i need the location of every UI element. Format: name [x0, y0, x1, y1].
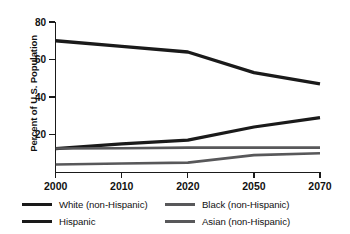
- series-line: [56, 148, 320, 149]
- legend-swatch-icon: [165, 203, 195, 206]
- chart-legend: White (non-Hispanic)Black (non-Hispanic)…: [22, 196, 342, 230]
- series-line: [56, 41, 320, 84]
- legend-item[interactable]: Black (non-Hispanic): [165, 196, 325, 213]
- legend-swatch-icon: [22, 220, 52, 224]
- legend-swatch-icon: [165, 220, 195, 223]
- legend-label: Hispanic: [59, 216, 95, 227]
- legend-label: White (non-Hispanic): [59, 199, 148, 210]
- series-line: [56, 153, 320, 164]
- legend-swatch-icon: [22, 203, 52, 207]
- series-line: [56, 118, 320, 149]
- legend-item[interactable]: Asian (non-Hispanic): [165, 213, 325, 230]
- legend-label: Black (non-Hispanic): [202, 199, 290, 210]
- legend-item[interactable]: White (non-Hispanic): [22, 196, 165, 213]
- legend-label: Asian (non-Hispanic): [202, 216, 290, 227]
- legend-item[interactable]: Hispanic: [22, 213, 165, 230]
- population-projection-chart: Percent of U.S. Population 20406080 2000…: [0, 0, 350, 234]
